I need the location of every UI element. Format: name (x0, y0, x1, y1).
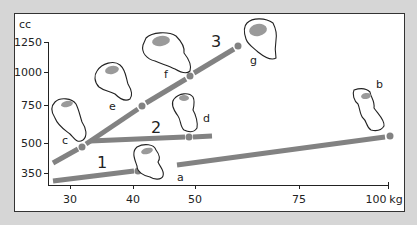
series-label-1: 1 (97, 153, 107, 172)
label-f: f (164, 68, 169, 81)
point-c (79, 144, 86, 151)
skull-d-icon (173, 94, 198, 132)
y-tick-750: 750 (21, 99, 42, 112)
x-tick-40: 40 (126, 193, 140, 206)
series-label-3: 3 (211, 32, 221, 51)
point-b (387, 133, 394, 140)
y-tick-500: 500 (21, 137, 42, 150)
skull-c-icon (52, 99, 86, 142)
x-axis (48, 182, 389, 189)
point-d (186, 134, 193, 141)
y-axis (44, 42, 49, 185)
label-d: d (203, 112, 210, 125)
point-f (187, 73, 194, 80)
skull-g-icon (244, 19, 276, 59)
skull-f-icon (143, 33, 191, 73)
point-e (139, 103, 146, 110)
label-a: a (177, 171, 184, 184)
skull-e-icon (95, 63, 132, 100)
label-g: g (250, 54, 257, 67)
brain-size-chart: cc 1250 1000 750 500 350 30 40 50 75 100… (0, 0, 417, 225)
x-tick-75: 75 (292, 193, 306, 206)
y-tick-350: 350 (21, 167, 42, 180)
label-e: e (109, 100, 116, 113)
x-tick-100: 100 (366, 193, 387, 206)
series-label-2: 2 (151, 118, 161, 137)
y-tick-1250: 1250 (14, 36, 42, 49)
y-tick-1000: 1000 (14, 66, 42, 79)
point-g (235, 43, 242, 50)
x-unit-label: kg (389, 193, 402, 206)
x-tick-50: 50 (188, 193, 202, 206)
skull-b-icon (353, 89, 384, 131)
y-unit-label: cc (19, 18, 31, 31)
label-b: b (376, 78, 383, 91)
label-c: c (62, 134, 68, 147)
x-tick-30: 30 (63, 193, 77, 206)
